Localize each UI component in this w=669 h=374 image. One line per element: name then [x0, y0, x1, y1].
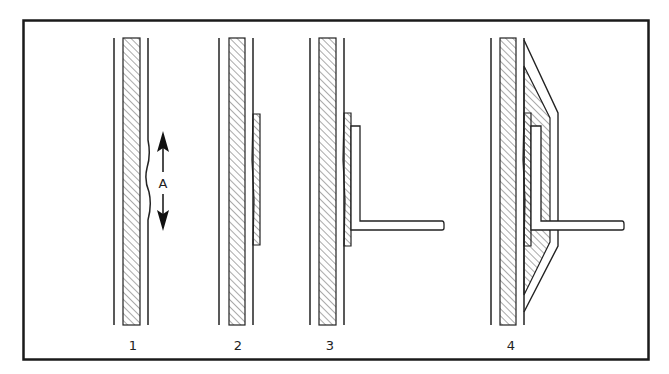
- patch-plate: [523, 113, 531, 246]
- movement-arrow: A: [157, 131, 169, 231]
- patch-plate: [343, 113, 351, 246]
- arrow-label: A: [159, 176, 168, 191]
- panel-1: A 1: [114, 38, 169, 353]
- panel-label: 2: [234, 338, 242, 353]
- panel-3: 3: [310, 38, 444, 353]
- hatched-wall: [500, 38, 516, 325]
- panel-label: 3: [326, 338, 334, 353]
- panel-label: 1: [129, 338, 137, 353]
- hatched-wall: [319, 38, 336, 325]
- panel-2: 2: [219, 38, 260, 353]
- hatched-wall: [123, 38, 140, 325]
- mechanical-diagram: A 1 2 3 4: [0, 0, 669, 374]
- hatched-wall: [229, 38, 245, 325]
- patch-plate: [252, 114, 260, 245]
- panel-label: 4: [507, 338, 515, 353]
- panel-4: 4: [491, 38, 624, 353]
- l-bracket: [351, 126, 444, 230]
- defect-wavy-surface: [146, 38, 150, 325]
